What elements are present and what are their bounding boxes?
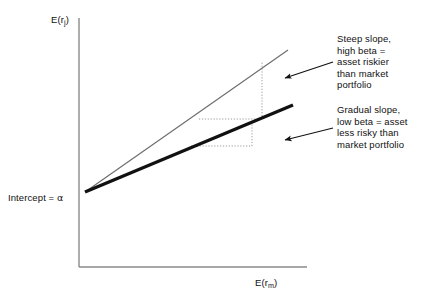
x-axis-label-subscript: m [268,281,274,290]
gradual-slope-note: Gradual slope, low beta = asset less ris… [337,104,433,150]
x-axis-label: E(rm) [255,277,277,290]
intercept-label: Intercept = α [8,192,63,204]
alpha-symbol: α [57,192,63,203]
x-axis-label-text: E(r [255,277,268,288]
x-axis-label-close: ) [274,277,277,288]
capm-beta-diagram: E(rj) E(rm) Intercept = α Steep slope, h… [0,0,434,305]
steep-slope-note: Steep slope, high beta = asset riskier t… [337,33,433,91]
y-axis-label-close: ) [66,14,69,25]
intercept-label-text: Intercept = [8,192,57,203]
gradual-line [85,105,293,192]
steep-note-arrow [285,62,333,78]
y-axis-label: E(rj) [51,14,69,27]
y-axis-label-subscript: j [64,18,66,27]
gradual-note-arrow [285,128,333,140]
y-axis-label-text: E(r [51,14,64,25]
